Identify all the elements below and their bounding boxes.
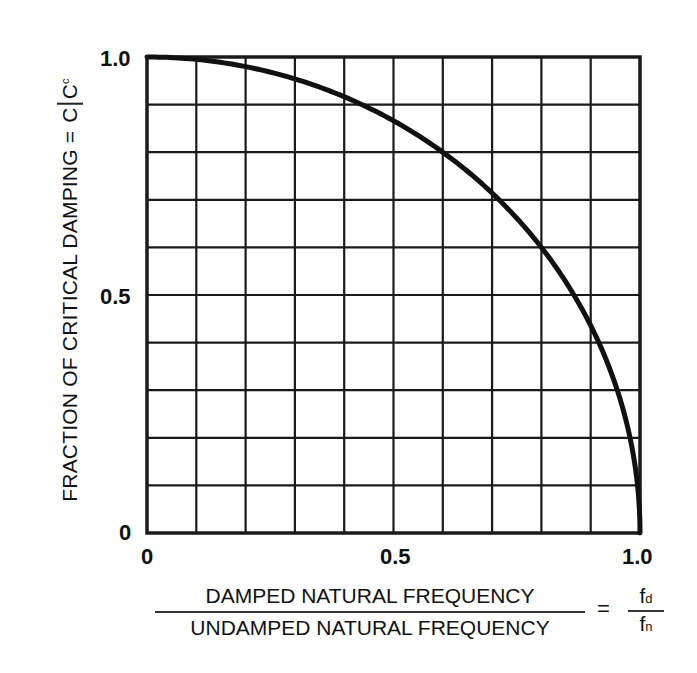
x-symbol-den-sub: n xyxy=(645,619,652,634)
y-tick-1: 1.0 xyxy=(100,46,131,72)
y-symbol-den-sub: c xyxy=(59,78,71,84)
x-axis-symbol: fd fn xyxy=(628,584,664,636)
y-tick-05: 0.5 xyxy=(100,284,131,310)
x-tick-0: 0 xyxy=(141,544,153,570)
x-axis-denominator: UNDAMPED NATURAL FREQUENCY xyxy=(155,613,585,640)
x-symbol-num-sub: d xyxy=(645,591,652,606)
fraction-bar xyxy=(57,102,83,104)
y-axis-symbol: C Cc xyxy=(57,78,83,122)
x-axis-numerator: DAMPED NATURAL FREQUENCY xyxy=(155,584,585,613)
x-axis-label: DAMPED NATURAL FREQUENCY UNDAMPED NATURA… xyxy=(155,584,585,640)
x-tick-1: 1.0 xyxy=(622,544,653,570)
y-symbol-den: C xyxy=(58,84,81,99)
equals-sign: = xyxy=(597,596,610,622)
x-tick-05: 0.5 xyxy=(380,544,411,570)
plot-area xyxy=(0,0,697,673)
y-axis-title: FRACTION OF CRITICAL DAMPING = xyxy=(58,131,82,502)
y-symbol-num: C xyxy=(58,107,82,122)
y-axis-label: FRACTION OF CRITICAL DAMPING = C Cc xyxy=(52,40,88,540)
y-tick-0: 0 xyxy=(119,520,131,546)
